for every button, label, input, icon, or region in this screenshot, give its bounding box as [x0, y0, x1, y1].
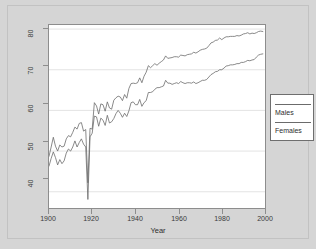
figure-frame: 80 70 60 50 40 1900 1920 1940 1960 1980	[7, 5, 309, 239]
legend-label-males: Males	[275, 109, 294, 116]
legend-line-females	[275, 122, 311, 123]
legend-label-females: Females	[275, 127, 302, 134]
x-tick-label-1920: 1920	[76, 215, 106, 222]
x-tick-label-1960: 1960	[164, 215, 194, 222]
chart-legend: Males Females	[270, 94, 314, 141]
y-tick-label-80: 80	[27, 18, 34, 38]
x-tickmark-1920	[91, 209, 92, 214]
y-tick-label-70: 70	[27, 55, 34, 75]
x-axis-label: Year	[8, 226, 308, 235]
screenshot-root: 80 70 60 50 40 1900 1920 1940 1960 1980	[0, 0, 316, 249]
x-tick-label-1900: 1900	[33, 215, 63, 222]
legend-line-males	[275, 104, 311, 105]
series-line-males	[49, 54, 263, 200]
gridlines	[49, 29, 265, 192]
x-tickmark-2000	[265, 209, 266, 214]
data-series-group	[49, 31, 263, 199]
x-tickmark-1900	[48, 209, 49, 214]
chart-canvas	[49, 25, 265, 208]
x-tick-label-2000: 2000	[250, 215, 280, 222]
plot-area	[48, 24, 266, 209]
x-tick-label-1940: 1940	[120, 215, 150, 222]
x-tickmark-1980	[222, 209, 223, 214]
series-line-females	[49, 31, 263, 183]
x-tick-label-1980: 1980	[207, 215, 237, 222]
y-tick-label-60: 60	[27, 93, 34, 113]
x-tickmark-1960	[179, 209, 180, 214]
y-tick-label-40: 40	[27, 168, 34, 188]
x-tickmark-1940	[135, 209, 136, 214]
y-tick-label-50: 50	[27, 131, 34, 151]
